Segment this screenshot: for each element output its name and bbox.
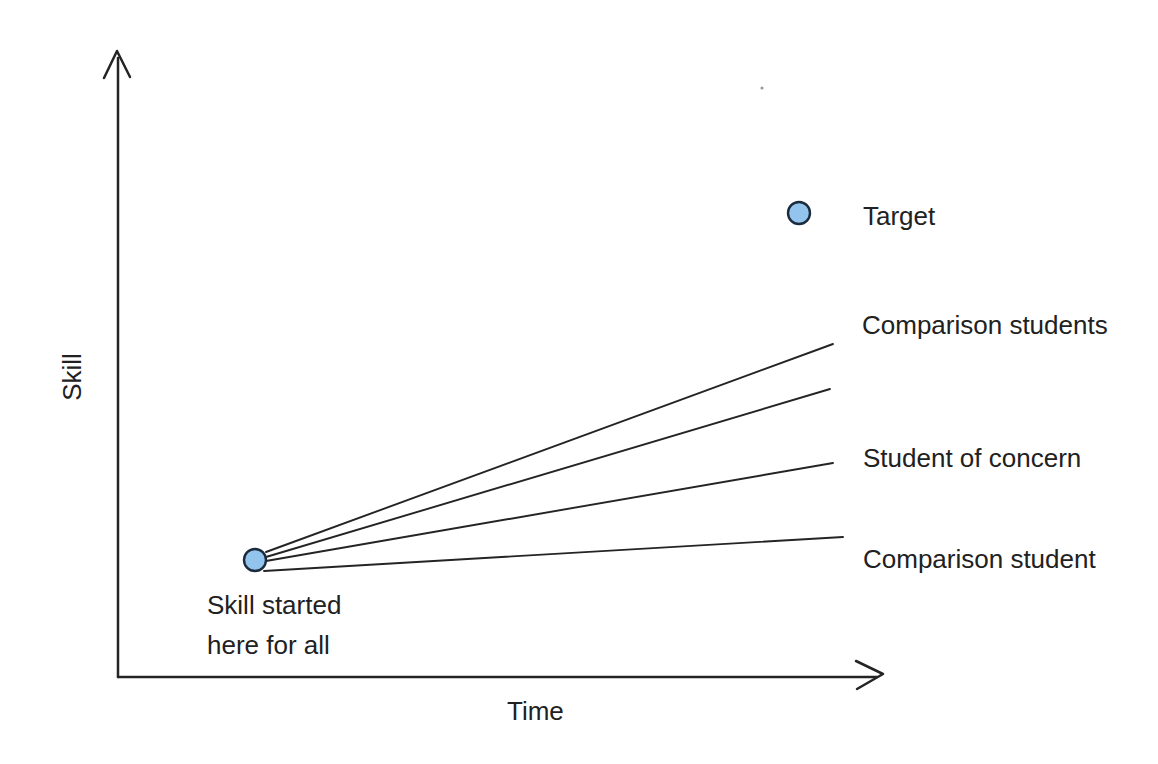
trend-line-comparison-students-lower xyxy=(266,389,830,557)
scan-speck-artifact xyxy=(760,86,763,89)
x-axis-arrowhead-icon xyxy=(856,661,883,689)
figure: Skill Time Target Comparison students St… xyxy=(0,0,1158,764)
comparison-students-annotation: Comparison students xyxy=(862,310,1108,340)
target-annotation: Target xyxy=(863,201,935,231)
start-point-annotation: Skill started here for all xyxy=(207,585,341,665)
trend-line-comparison-students-upper xyxy=(266,344,833,552)
comparison-student-annotation: Comparison student xyxy=(863,544,1096,574)
start-point-dot xyxy=(244,549,266,571)
x-axis-label: Time xyxy=(507,696,564,726)
target-point-dot xyxy=(788,202,810,224)
y-axis-label: Skill xyxy=(57,353,87,401)
trend-line-student-of-concern xyxy=(266,463,833,561)
figure-canvas xyxy=(0,0,1158,764)
trend-line-comparison-student xyxy=(264,537,843,571)
student-of-concern-annotation: Student of concern xyxy=(863,443,1081,473)
